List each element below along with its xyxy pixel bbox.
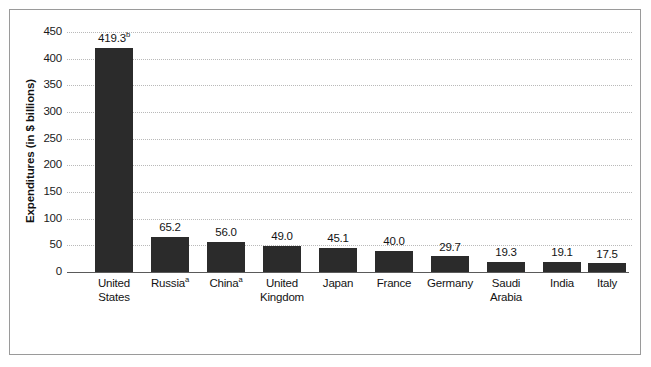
bar-italy[interactable]: [588, 263, 626, 272]
bar-value-germany: 29.7: [420, 241, 480, 253]
value-text: 65.2: [159, 221, 181, 233]
bar-saudi-arabia[interactable]: [487, 262, 525, 272]
value-text: 29.7: [439, 241, 461, 253]
bar-united-states[interactable]: [95, 48, 133, 272]
x-label-line1: China: [209, 277, 238, 289]
value-text: 19.1: [551, 246, 573, 258]
bar-france[interactable]: [375, 251, 413, 272]
bar-value-france: 40.0: [364, 235, 424, 247]
bar-value-united-states: 419.3b: [84, 32, 144, 44]
bar-germany[interactable]: [431, 256, 469, 272]
bar-russia[interactable]: [151, 237, 189, 272]
bar-value-russia: 65.2: [140, 221, 200, 233]
x-label-line1: Japan: [323, 277, 353, 289]
y-axis-title: Expenditures (in $ billions): [24, 41, 36, 261]
x-label-superscript: a: [239, 275, 243, 284]
gridline-200: [67, 165, 632, 166]
y-tick-350: 350: [22, 78, 62, 92]
plot-area: Expenditures (in $ billions) 450 400 350…: [0, 0, 651, 367]
y-tick-0: 0: [22, 265, 62, 279]
value-text: 40.0: [383, 235, 405, 247]
value-superscript: b: [126, 30, 130, 39]
x-axis-line: [67, 272, 629, 273]
x-label-line1: United: [98, 277, 130, 289]
value-text: 49.0: [271, 230, 293, 242]
y-tick-450: 450: [22, 25, 62, 39]
chart-figure: Expenditures (in $ billions) 450 400 350…: [0, 0, 651, 367]
x-label-line1: United: [266, 277, 298, 289]
bar-value-italy: 17.5: [577, 248, 637, 260]
x-label-line2: Arabia: [471, 291, 541, 305]
bar-japan[interactable]: [319, 248, 357, 272]
bar-value-japan: 45.1: [308, 232, 368, 244]
bar-value-china: 56.0: [196, 226, 256, 238]
x-label-line1: France: [377, 277, 412, 289]
x-label-superscript: a: [185, 275, 189, 284]
gridline-250: [67, 139, 632, 140]
y-tick-300: 300: [22, 105, 62, 119]
x-label-line2: Kingdom: [247, 291, 317, 305]
bar-united-kingdom[interactable]: [263, 246, 301, 272]
y-tick-150: 150: [22, 185, 62, 199]
value-text: 419.3: [98, 32, 126, 44]
x-label-italy: Italy: [572, 277, 642, 291]
bar-value-united-kingdom: 49.0: [252, 230, 312, 242]
gridline-150: [67, 192, 632, 193]
x-label-line1: Russia: [151, 277, 185, 289]
x-label-line1: Germany: [427, 277, 473, 289]
x-label-line1: Saudi: [492, 277, 520, 289]
gridline-400: [67, 59, 632, 60]
y-tick-50: 50: [22, 238, 62, 252]
value-text: 17.5: [596, 248, 618, 260]
value-text: 45.1: [327, 232, 349, 244]
y-tick-250: 250: [22, 132, 62, 146]
x-label-line1: Italy: [597, 277, 617, 289]
y-tick-100: 100: [22, 212, 62, 226]
value-text: 56.0: [215, 226, 237, 238]
gridline-300: [67, 112, 632, 113]
gridline-350: [67, 85, 632, 86]
bar-value-saudi-arabia: 19.3: [476, 246, 536, 258]
value-text: 19.3: [495, 246, 517, 258]
bar-india[interactable]: [543, 262, 581, 272]
x-label-line1: India: [550, 277, 574, 289]
y-tick-200: 200: [22, 158, 62, 172]
y-tick-400: 400: [22, 52, 62, 66]
gridline-100: [67, 219, 632, 220]
x-label-line2: States: [79, 291, 149, 305]
bar-china[interactable]: [207, 242, 245, 272]
gridline-450: [67, 32, 632, 33]
